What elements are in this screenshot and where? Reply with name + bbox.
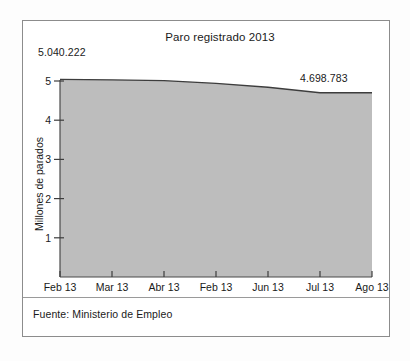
y-axis-tick-label: 1 [45, 232, 51, 244]
y-axis-tick-label: 3 [45, 153, 51, 165]
y-axis-tick-label: 4 [45, 114, 51, 126]
x-axis-tick-label: Feb 13 [200, 281, 233, 293]
chart-figure: Paro registrado 2013 5.040.222 4.698.783… [0, 0, 410, 361]
x-axis-tick-label: Jul 13 [306, 281, 334, 293]
chart-plot-area: 12345 Feb 13Mar 13Abr 13Feb 13Jun 13Jul … [0, 0, 410, 361]
area-series [60, 79, 372, 277]
x-axis-tick-label: Mar 13 [96, 281, 129, 293]
x-axis-tick-label: Feb 13 [44, 281, 77, 293]
y-axis-tick-label: 5 [45, 75, 51, 87]
footer-divider [23, 297, 389, 298]
x-axis-tick-label: Jun 13 [252, 281, 284, 293]
x-axis-tick-label: Ago 13 [355, 281, 388, 293]
area-fill-path [60, 79, 372, 277]
y-axis-tick-label: 2 [45, 193, 51, 205]
source-note: Fuente: Ministerio de Empleo [33, 308, 172, 320]
x-axis-tick-label: Abr 13 [149, 281, 180, 293]
